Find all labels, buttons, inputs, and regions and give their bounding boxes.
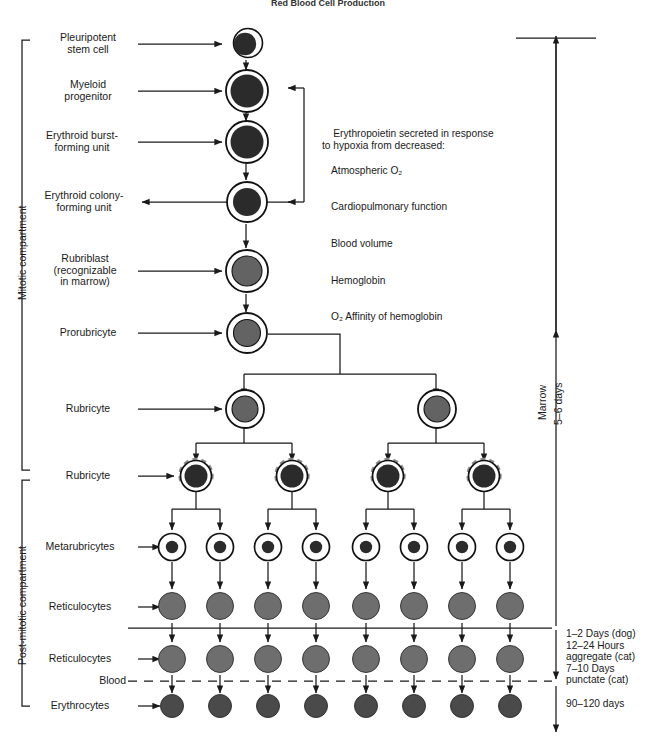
diagram-vector-layer — [0, 0, 656, 738]
cell-metarubricyte-5 — [353, 534, 380, 561]
erythropoietin-item-5: O₂ Affinity of hemoglobin — [322, 311, 494, 323]
cell-metarubricyte-6 — [401, 534, 428, 561]
stage-label-pleuripotent-stem-cell: Pleuripotent stem cell — [38, 32, 138, 55]
cell-reticulocyte-row1-3 — [255, 593, 282, 620]
annotation-marrow-duration: 5–6 days — [552, 382, 564, 425]
split-rubricyte2-to-metarubricytes — [172, 492, 510, 530]
cell-reticulocyte-row2-7 — [449, 646, 476, 673]
cell-reticulocyte-row1-7 — [449, 593, 476, 620]
cell-prorubricyte — [227, 313, 267, 353]
cell-erythrocyte-2 — [209, 695, 232, 718]
cell-metarubricyte-3 — [255, 534, 282, 561]
cell-reticulocyte-row2-1 — [159, 646, 186, 673]
stage-label-prorubricyte: Prorubricyte — [38, 327, 138, 339]
cell-erythrocyte-3 — [257, 695, 280, 718]
stage-label-reticulocytes-2: Reticulocytes — [22, 653, 138, 665]
cell-metarubricyte-1 — [159, 534, 186, 561]
erythropoietin-bracket — [288, 88, 304, 202]
erythropoietin-item-3: Blood volume — [322, 238, 494, 250]
stage-label-myeloid-progenitor: Myeloid progenitor — [38, 79, 138, 102]
cell-erythrocyte-6 — [403, 695, 426, 718]
cell-reticulocyte-row2-2 — [207, 646, 234, 673]
blood-line-label: Blood — [58, 675, 126, 687]
erythropoietin-item-1: Atmospheric O₂ — [322, 165, 494, 177]
cell-metarubricyte-8 — [497, 534, 524, 561]
cell-erythrocyte-8 — [499, 695, 522, 718]
split-rubricyte1-to-rubricyte2 — [196, 426, 484, 461]
cell-reticulocyte-row2-4 — [303, 646, 330, 673]
stage-label-rubriblast: Rubriblast (recognizable in marrow) — [32, 253, 138, 288]
stage-label-reticulocytes-1: Reticulocytes — [22, 601, 138, 613]
cell-reticulocyte-row1-6 — [401, 593, 428, 620]
erythropoietin-line-1: Erythropoietin secreted in response — [333, 128, 493, 139]
cell-metarubricyte-2 — [207, 534, 234, 561]
cell-rubricyte-1-a — [226, 390, 264, 428]
stage-label-erythrocytes: Erythrocytes — [22, 700, 138, 712]
cell-reticulocyte-row2-6 — [401, 646, 428, 673]
cell-rubricyte-2-a — [180, 459, 212, 491]
cell-reticulocyte-row1-8 — [497, 593, 524, 620]
cell-rubricyte-2-c — [372, 459, 404, 491]
compartment-label-mitotic: Mitotic compartment — [16, 205, 28, 300]
stage-label-rubricyte-2: Rubricyte — [38, 470, 138, 482]
cell-metarubricyte-4 — [303, 534, 330, 561]
stage-label-erythroid-colony-forming-unit: Erythroid colony- forming unit — [26, 190, 142, 213]
cell-rubriblast — [226, 250, 268, 292]
cell-metarubricyte-7 — [449, 534, 476, 561]
cell-rubricyte-2-d — [468, 459, 500, 491]
erythropoietin-line-2: to hypoxia from decreased: — [322, 140, 445, 151]
cell-reticulocyte-row1-5 — [353, 593, 380, 620]
cell-rubricyte-1-b — [418, 390, 456, 428]
stage-label-erythroid-burst-forming-unit: Erythroid burst- forming unit — [26, 130, 138, 153]
cell-erythrocyte-1 — [161, 695, 184, 718]
cell-erythrocyte-5 — [355, 695, 378, 718]
cell-reticulocyte-row2-8 — [497, 646, 524, 673]
right-scale-bars — [516, 36, 596, 626]
cell-myeloid-progenitor — [226, 70, 268, 112]
cell-pleuripotent-stem-cell — [234, 29, 263, 58]
cell-erythroid-colony-forming-unit — [227, 182, 267, 222]
cell-reticulocyte-row2-3 — [255, 646, 282, 673]
annotation-reticulocyte-notes: 1–2 Days (dog) 12–24 Hours aggregate (ca… — [566, 628, 636, 686]
cell-erythroid-burst-forming-unit — [226, 121, 268, 163]
diagram-canvas: Red Blood Cell Production — [0, 0, 656, 738]
cell-reticulocyte-row1-4 — [303, 593, 330, 620]
cell-rubricyte-2-b — [276, 459, 308, 491]
stage-label-rubricyte-1: Rubricyte — [38, 403, 138, 415]
erythropoietin-item-4: Hemoglobin — [322, 275, 494, 287]
annotation-marrow: Marrow — [536, 385, 548, 420]
stage-label-metarubricytes: Metarubricytes — [22, 541, 138, 553]
cell-reticulocyte-row2-5 — [353, 646, 380, 673]
erythropoietin-item-2: Cardiopulmonary function — [322, 201, 494, 213]
cell-erythrocyte-4 — [305, 695, 328, 718]
annotation-erythrocyte-lifespan: 90–120 days — [566, 698, 624, 710]
cell-reticulocyte-row1-1 — [159, 593, 186, 620]
cell-reticulocyte-row1-2 — [207, 593, 234, 620]
cell-erythrocyte-7 — [451, 695, 474, 718]
erythropoietin-callout: Erythropoietin secreted in response to h… — [322, 116, 494, 348]
